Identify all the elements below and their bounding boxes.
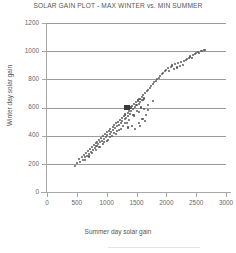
x-tick-2000 [166, 193, 167, 197]
x-tick-label-500: 500 [62, 199, 92, 206]
x-axis-tick-labels: 050010001500200025003000 [0, 199, 236, 211]
data-point [144, 120, 146, 122]
data-point [149, 87, 151, 89]
data-point [177, 62, 179, 64]
x-tick-label-2000: 2000 [151, 199, 181, 206]
data-point [138, 111, 140, 113]
data-point [92, 149, 94, 151]
data-point [121, 117, 123, 119]
data-point [105, 136, 107, 138]
data-point [128, 119, 130, 121]
x-tick-3000 [226, 193, 227, 197]
data-point [127, 115, 129, 117]
data-point [102, 135, 104, 137]
data-point [133, 115, 135, 117]
y-tick-200 [42, 164, 47, 165]
highlighted-data-point [124, 105, 129, 110]
data-point [144, 92, 146, 94]
data-point [113, 132, 115, 134]
y-tick-600 [42, 108, 47, 109]
x-tick-1000 [107, 193, 108, 197]
data-point [97, 143, 99, 145]
data-point [131, 125, 133, 127]
data-point [139, 101, 141, 103]
data-point [85, 152, 87, 154]
y-tick-label-0: 0 [13, 189, 39, 195]
data-point [93, 144, 95, 146]
data-point [191, 57, 193, 59]
data-point [87, 150, 89, 152]
data-point [88, 155, 90, 157]
data-point [147, 89, 149, 91]
solar-gain-scatter-chart: SOLAR GAIN PLOT - MAX WINTER vs. MIN SUM… [0, 0, 236, 253]
data-point [173, 68, 175, 70]
data-point [124, 113, 126, 115]
data-point [129, 113, 131, 115]
x-tick-label-1500: 1500 [122, 199, 152, 206]
x-tick-2500 [196, 193, 197, 197]
data-point [174, 63, 176, 65]
data-point [91, 146, 93, 148]
data-point [152, 100, 154, 102]
data-point [167, 67, 169, 69]
data-point [91, 152, 93, 154]
y-axis-title: Winter day solar gain [6, 31, 13, 161]
data-point [182, 64, 184, 66]
data-point [76, 162, 78, 164]
data-point [89, 148, 91, 150]
data-point [102, 143, 104, 145]
data-point [204, 49, 206, 51]
data-point [81, 156, 83, 158]
x-tick-0 [47, 193, 48, 197]
y-tick-1200 [42, 23, 47, 24]
data-point [168, 70, 170, 72]
data-point [98, 139, 100, 141]
footer-divider [108, 247, 200, 248]
data-point [79, 161, 81, 163]
data-point [147, 109, 149, 111]
y-tick-label-800: 800 [13, 76, 39, 82]
y-tick-800 [42, 79, 47, 80]
y-tick-label-1200: 1200 [13, 20, 39, 26]
data-point [138, 122, 140, 124]
data-point [84, 159, 86, 161]
data-point [115, 133, 117, 135]
y-tick-label-400: 400 [13, 132, 39, 138]
data-point [124, 122, 126, 124]
y-tick-label-1000: 1000 [13, 48, 39, 54]
data-point [109, 136, 111, 138]
y-tick-label-600: 600 [13, 104, 39, 110]
data-points-layer [47, 23, 226, 192]
x-tick-1500 [137, 193, 138, 197]
data-point [95, 149, 97, 151]
data-point [126, 122, 128, 124]
data-point [100, 137, 102, 139]
data-point [111, 135, 113, 137]
data-point [122, 125, 124, 127]
data-point [134, 128, 136, 130]
plot-area [47, 23, 226, 192]
data-point [112, 129, 114, 131]
data-point [114, 127, 116, 129]
data-point [152, 83, 154, 85]
data-point [171, 64, 173, 66]
y-tick-label-200: 200 [13, 161, 39, 167]
data-point [134, 106, 136, 108]
data-point [106, 140, 108, 142]
data-point [179, 65, 181, 67]
x-tick-label-0: 0 [32, 199, 62, 206]
data-point [121, 120, 123, 122]
data-point [159, 75, 161, 77]
data-point [118, 124, 120, 126]
data-point [103, 138, 105, 140]
data-point [120, 128, 122, 130]
data-point [180, 61, 182, 63]
data-point [162, 72, 164, 74]
data-point [142, 94, 144, 96]
data-point [132, 108, 134, 110]
data-point [140, 106, 142, 108]
x-tick-label-3000: 3000 [211, 199, 236, 206]
x-tick-label-1000: 1000 [92, 199, 122, 206]
data-point [109, 128, 111, 130]
y-axis-tick-labels: 020040060080010001200 [9, 0, 39, 253]
